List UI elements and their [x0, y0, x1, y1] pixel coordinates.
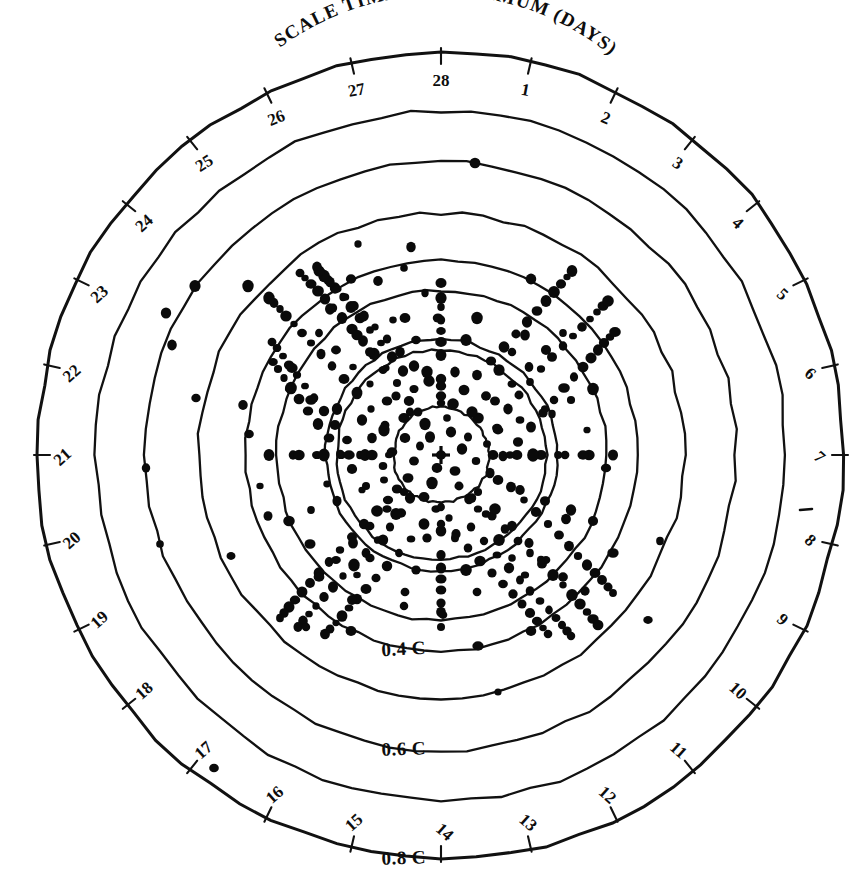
data-point [349, 301, 358, 311]
data-point [371, 574, 380, 583]
data-point [242, 280, 253, 293]
data-point [537, 556, 545, 564]
data-point [352, 387, 363, 400]
data-point [161, 307, 171, 318]
tick-label-day-16: 16 [262, 782, 287, 807]
data-point [325, 303, 335, 314]
tick-label-day-7: 7 [810, 447, 829, 467]
data-point [435, 337, 447, 347]
data-point [439, 611, 448, 619]
data-point [493, 426, 504, 435]
tick-mark-day-15 [350, 836, 354, 852]
data-point [318, 449, 329, 462]
data-point [583, 427, 590, 434]
data-point [268, 338, 277, 347]
data-point [390, 508, 401, 520]
data-point [405, 492, 415, 503]
data-point [490, 396, 500, 405]
data-point [558, 572, 568, 581]
data-point [547, 569, 558, 581]
data-point [435, 574, 446, 583]
data-point [514, 537, 523, 545]
data-point [339, 572, 346, 580]
data-point [520, 497, 528, 504]
data-point [460, 564, 472, 576]
data-point [574, 598, 585, 609]
data-point [367, 405, 374, 413]
data-point [409, 385, 418, 393]
data-point [537, 365, 545, 372]
data-point [343, 450, 354, 459]
data-point [437, 623, 445, 631]
data-point [264, 449, 275, 461]
data-point [493, 534, 505, 546]
data-point [346, 274, 356, 283]
data-point [580, 586, 589, 596]
data-point [436, 349, 447, 361]
data-point [303, 406, 313, 415]
data-point [379, 462, 388, 470]
data-point [432, 463, 443, 473]
data-point [577, 450, 588, 459]
data-point [564, 541, 574, 551]
data-point [526, 626, 537, 636]
data-point [488, 450, 499, 460]
data-point [561, 451, 570, 459]
data-point [366, 522, 375, 531]
tick-label-day-26: 26 [265, 106, 288, 130]
data-point [382, 561, 393, 572]
data-point [315, 329, 323, 338]
data-point [437, 303, 445, 311]
data-point [536, 597, 545, 604]
data-point [494, 688, 501, 695]
data-point [554, 451, 562, 459]
data-point [393, 379, 401, 387]
data-point [507, 521, 517, 532]
data-point [332, 403, 342, 415]
data-point [460, 334, 471, 346]
data-point [569, 333, 577, 340]
data-point [256, 483, 263, 490]
data-point [470, 158, 481, 168]
radial-label-0-6c: 0.6 C [381, 737, 426, 760]
data-point [436, 550, 445, 560]
data-point [583, 608, 591, 616]
tick-label-day-9: 9 [773, 610, 792, 630]
data-point [531, 507, 541, 517]
data-point [466, 406, 477, 418]
data-point [274, 365, 282, 373]
tick-label-day-20: 20 [59, 528, 84, 553]
data-point [296, 269, 305, 278]
data-point [578, 362, 589, 373]
data-point [400, 433, 411, 443]
data-point [586, 316, 594, 323]
data-point [305, 611, 313, 618]
data-point [286, 363, 297, 373]
data-point [520, 329, 530, 340]
data-point [365, 347, 375, 357]
data-point [167, 340, 177, 351]
tick-label-day-27: 27 [346, 79, 367, 101]
data-point [389, 317, 397, 324]
data-point [386, 522, 394, 531]
data-point [437, 399, 445, 406]
data-point [409, 360, 419, 371]
data-point [539, 625, 547, 631]
data-point [433, 313, 444, 322]
tick-label-day-25: 25 [192, 151, 217, 176]
data-point [559, 329, 567, 337]
data-point [324, 434, 335, 443]
data-point [567, 396, 575, 404]
data-point [514, 391, 523, 400]
data-point [293, 450, 304, 460]
data-point [489, 503, 501, 515]
data-point [383, 496, 393, 504]
data-point [656, 537, 664, 545]
data-point [419, 418, 430, 430]
tick-mark-day-12 [611, 807, 618, 821]
data-point [526, 549, 534, 558]
data-point [527, 448, 539, 461]
data-point [481, 391, 491, 401]
data-point [409, 457, 419, 466]
data-point [283, 516, 295, 526]
